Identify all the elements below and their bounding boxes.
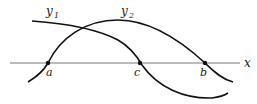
point-c-label: c: [134, 66, 140, 79]
curve-y1-subscript: 1: [54, 11, 59, 20]
point-b-label: b: [200, 66, 207, 79]
x-axis-label: x: [244, 56, 251, 70]
point-c: [138, 61, 142, 65]
curve-y2-subscript: 2: [128, 11, 134, 20]
point-a: [46, 61, 50, 65]
curve-y2-label: y: [120, 4, 128, 18]
diagram-canvas: x a c b y 1 y 2: [0, 0, 257, 104]
point-b: [203, 61, 207, 65]
curve-y1: [32, 21, 228, 98]
point-a-label: a: [46, 66, 53, 79]
curve-y1-label: y: [45, 4, 53, 18]
